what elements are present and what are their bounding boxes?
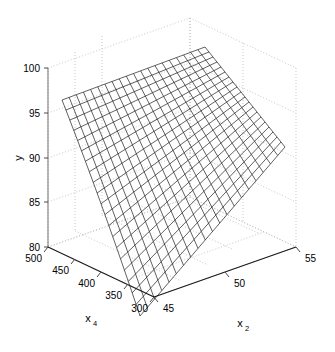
x2-ticklabel-50: 50 <box>234 278 246 289</box>
y-ticklabel-95: 95 <box>29 108 41 119</box>
figure-background <box>0 0 335 352</box>
x2-axis-title-base: x <box>237 317 243 329</box>
y-ticklabel-90: 90 <box>29 153 41 164</box>
x4-ticklabel-500: 500 <box>25 253 42 264</box>
x2-axis-title-subscript: 2 <box>245 324 249 333</box>
y-ticklabel-100: 100 <box>23 63 40 74</box>
x4-ticklabel-400: 400 <box>78 278 95 289</box>
y-axis-title: y <box>12 155 24 161</box>
x2-ticklabel-55: 55 <box>305 253 317 264</box>
x4-ticklabel-300: 300 <box>131 303 148 314</box>
y-ticklabel-85: 85 <box>29 197 41 208</box>
x4-ticklabel-450: 450 <box>52 265 69 276</box>
y-ticklabel-80: 80 <box>29 242 41 253</box>
x4-axis-title-subscript: 4 <box>93 319 97 328</box>
x4-axis-title-base: x <box>85 312 91 324</box>
plot-canvas: 100 95 90 85 80 500 450 400 350 300 45 5… <box>0 0 335 352</box>
surface-plot-figure: 100 95 90 85 80 500 450 400 350 300 45 5… <box>0 0 335 352</box>
x2-ticklabel-45: 45 <box>163 303 175 314</box>
x4-ticklabel-350: 350 <box>105 290 122 301</box>
